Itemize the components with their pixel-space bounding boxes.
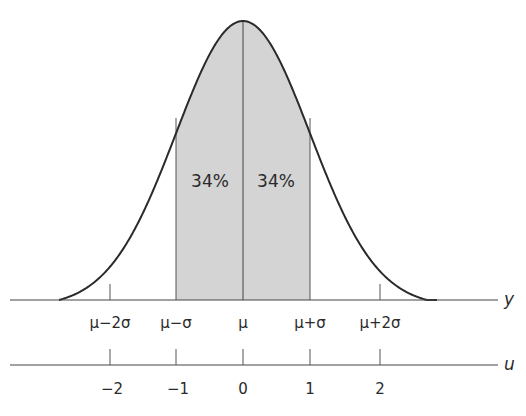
u-tick-label: 1 <box>305 380 315 398</box>
normal-distribution-diagram: y μ−2σ μ−σ μ μ+σ μ+2σ u −2 −1 0 1 2 34% … <box>0 0 526 416</box>
u-axis-label: u <box>504 354 515 374</box>
percent-right-label: 34% <box>257 171 295 191</box>
percent-left-label: 34% <box>191 171 229 191</box>
y-tick-label: μ−σ <box>160 314 192 332</box>
u-tick-label: 0 <box>238 380 248 398</box>
u-tick-label: 2 <box>375 380 385 398</box>
y-tick-label: μ+σ <box>294 314 326 332</box>
y-tick-label: μ−2σ <box>89 314 131 332</box>
y-tick-label: μ+2σ <box>359 314 401 332</box>
y-axis-label: y <box>503 289 515 309</box>
u-tick-label: −2 <box>101 380 123 398</box>
y-tick-label: μ <box>238 314 248 332</box>
u-tick-label: −1 <box>167 380 189 398</box>
